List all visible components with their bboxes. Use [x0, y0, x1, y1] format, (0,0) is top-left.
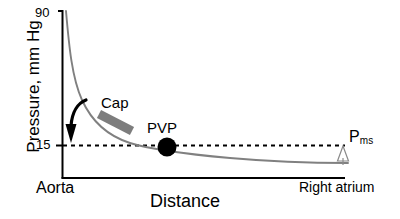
cap-label: Cap	[101, 95, 129, 110]
pms-subscript-text: ms	[360, 135, 374, 146]
y-tick-label-15: 15	[36, 138, 50, 151]
x-axis-left-label: Aorta	[36, 180, 74, 196]
x-axis-label: Distance	[150, 192, 220, 210]
x-axis-right-label: Right atrium	[299, 180, 374, 194]
pressure-curve	[66, 11, 348, 163]
pms-base-text: P	[349, 128, 360, 145]
pvp-dot	[158, 138, 177, 157]
pressure-distance-figure: Pressure, mm Hg Distance 90 15 Aorta Rig…	[0, 0, 400, 219]
pvp-label: PVP	[147, 120, 177, 135]
pms-label: Pms	[349, 129, 373, 146]
y-tick-label-90: 90	[35, 6, 49, 19]
pressure-drop-arrow	[66, 100, 87, 143]
